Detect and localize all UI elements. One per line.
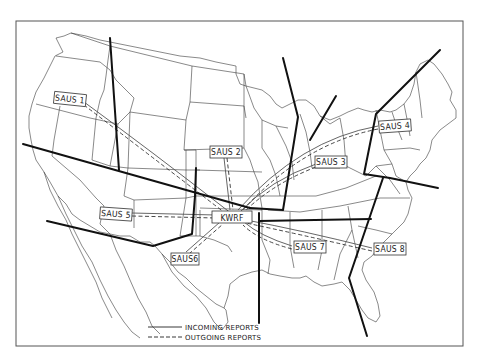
- station-label: SAUS 8: [375, 244, 405, 254]
- station-saus8: SAUS 8: [374, 243, 406, 255]
- hub-kwrf: KWRF: [212, 211, 252, 223]
- station-label: SAUS6: [171, 254, 198, 264]
- station-saus7: SAUS 7: [294, 241, 326, 253]
- station-saus4: SAUS 4: [379, 119, 412, 133]
- station-label: SAUS 3: [316, 157, 346, 167]
- legend-incoming-label: INCOMING REPORTS: [185, 324, 259, 332]
- station-label: SAUS 5: [101, 208, 131, 220]
- station-saus2: SAUS 2: [210, 146, 242, 158]
- hub-label: KWRF: [220, 213, 243, 223]
- station-saus3: SAUS 3: [315, 156, 347, 168]
- station-label: SAUS 4: [380, 120, 410, 132]
- station-label: SAUS 7: [295, 242, 325, 252]
- weather-report-network-map: KWRF SAUS 1 SAUS 2 SAUS 3 SAUS 4 SAUS 5 …: [0, 0, 487, 361]
- station-saus6: SAUS6: [171, 253, 199, 265]
- legend-outgoing-label: OUTGOING REPORTS: [185, 334, 261, 342]
- station-label: SAUS 2: [211, 147, 241, 157]
- station-saus5: SAUS 5: [100, 207, 133, 221]
